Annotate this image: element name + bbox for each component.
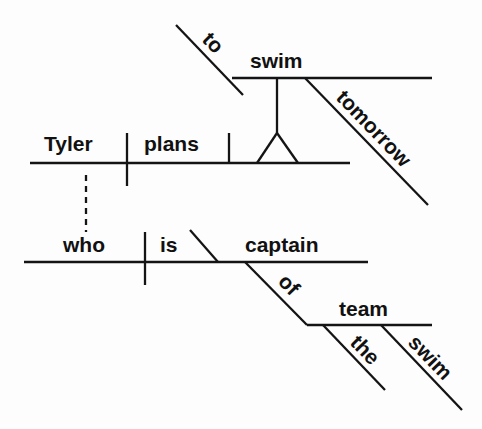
word-is: is: [160, 234, 178, 255]
word-swim-infinitive: swim: [250, 50, 303, 71]
word-captain: captain: [245, 234, 319, 255]
pedestal-right-leg: [277, 133, 298, 163]
predicate-nominative-slash: [190, 230, 218, 262]
tomorrow-slant-line: [305, 78, 428, 205]
of-slant-line: [245, 262, 307, 325]
diagram-lines: [0, 0, 482, 429]
pedestal-left-leg: [257, 133, 277, 163]
word-tyler: Tyler: [44, 133, 93, 154]
sentence-diagram: to swim tomorrow Tyler plans who is capt…: [0, 0, 482, 429]
word-plans: plans: [144, 133, 199, 154]
word-who: who: [63, 234, 105, 255]
word-team: team: [339, 298, 388, 319]
